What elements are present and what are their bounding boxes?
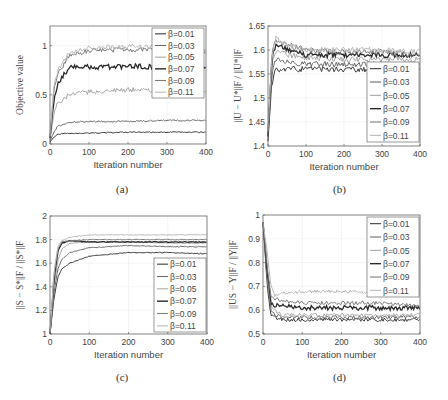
chart-b: 01002003004001.41.451.51.551.61.65Iterat… [233,21,427,172]
legend-label: β=0.05 [170,284,197,294]
x-tick-label: 0 [261,337,266,347]
legend: β=0.01β=0.03β=0.05β=0.07β=0.09β=0.11 [154,258,206,332]
x-tick-label: 200 [337,149,351,159]
y-axis-label: ||S − S*||F / ||S*||F [15,241,25,310]
x-axis-label: Iteration number [93,159,162,170]
legend-label: β=0.11 [383,286,409,296]
figure: 010020030040000.51Iteration numberObject… [0,0,448,400]
y-tick-label: 0.6 [248,305,260,315]
legend: β=0.01β=0.03β=0.05β=0.07β=0.09β=0.11 [367,62,419,142]
y-tick-label: 1.8 [35,235,47,245]
x-tick-label: 200 [121,337,135,347]
x-tick-label: 100 [82,337,96,347]
y-tick-label: 1.45 [248,117,265,127]
chart-d: 01002003004000.50.60.70.80.91Iteration n… [228,210,427,360]
legend: β=0.01β=0.03β=0.05β=0.07β=0.09β=0.11 [152,28,204,98]
x-tick-label: 300 [375,149,389,159]
legend-label: β=0.03 [168,41,195,51]
y-tick-label: 1.65 [248,21,265,31]
y-axis-label: Objective value [15,55,25,115]
legend-label: β=0.03 [170,272,197,282]
legend-label: β=0.01 [383,219,410,229]
legend-label: β=0.09 [168,76,195,86]
figure-svg: 010020030040000.51Iteration numberObject… [0,0,448,400]
y-tick-label: 1 [255,210,260,220]
legend-label: β=0.01 [383,64,410,74]
chart-c: 010020030040011.21.41.61.82Iteration num… [15,211,214,360]
legend-label: β=0.11 [168,87,194,97]
y-tick-label: 0.9 [248,234,260,244]
x-axis-label: Iteration number [307,349,376,360]
legend-label: β=0.05 [383,91,410,101]
x-tick-label: 0 [48,337,53,347]
legend-label: β=0.07 [168,64,195,74]
y-tick-label: 1 [42,329,47,339]
legend: β=0.01β=0.03β=0.05β=0.07β=0.09β=0.11 [367,217,419,297]
x-tick-label: 100 [299,149,313,159]
legend-label: β=0.07 [170,296,197,306]
y-tick-label: 0.7 [248,281,260,291]
x-tick-label: 400 [413,337,427,347]
x-tick-label: 400 [200,337,214,347]
y-tick-label: 0.5 [248,329,260,339]
x-tick-label: 100 [82,147,96,157]
x-tick-label: 400 [413,149,427,159]
legend-label: β=0.03 [383,77,410,87]
legend-label: β=0.09 [170,309,197,319]
chart-a: 010020030040000.51Iteration numberObject… [15,26,213,170]
y-tick-label: 1.6 [35,258,47,268]
y-tick-label: 1.4 [253,141,265,151]
legend-label: β=0.01 [170,259,197,269]
x-tick-label: 0 [266,149,271,159]
x-tick-label: 200 [334,337,348,347]
legend-label: β=0.05 [168,52,195,62]
x-tick-label: 300 [161,337,175,347]
x-tick-label: 400 [199,147,213,157]
legend-label: β=0.07 [383,104,410,114]
x-tick-label: 100 [295,337,309,347]
caption-a: (a) [116,183,128,195]
y-tick-label: 0.8 [248,258,260,268]
x-axis-label: Iteration number [309,161,378,172]
y-tick-label: 1.2 [35,305,47,315]
y-axis-label: ||U − U*||F / ||U*||F [233,49,243,122]
legend-label: β=0.11 [170,321,196,331]
y-tick-label: 0 [42,139,47,149]
legend-label: β=0.11 [383,131,409,141]
caption-d: (d) [333,371,346,383]
legend-label: β=0.09 [383,117,410,127]
caption-b: (b) [333,183,346,195]
y-tick-label: 1.6 [253,45,265,55]
caption-c: (c) [116,371,128,383]
legend-label: β=0.03 [383,232,410,242]
y-tick-label: 1.5 [253,93,265,103]
x-tick-label: 200 [121,147,135,157]
x-tick-label: 300 [374,337,388,347]
x-tick-label: 0 [48,147,53,157]
legend-label: β=0.01 [168,29,195,39]
x-axis-label: Iteration number [94,349,163,360]
y-axis-label: ||US − Y||F / ||Y||F [228,240,238,309]
legend-label: β=0.05 [383,246,410,256]
y-tick-label: 1 [42,41,47,51]
y-tick-label: 0.5 [35,90,47,100]
legend-label: β=0.09 [383,272,410,282]
x-tick-label: 300 [160,147,174,157]
y-tick-label: 1.4 [35,282,47,292]
y-tick-label: 1.55 [248,69,265,79]
legend-label: β=0.07 [383,259,410,269]
y-tick-label: 2 [42,211,47,221]
